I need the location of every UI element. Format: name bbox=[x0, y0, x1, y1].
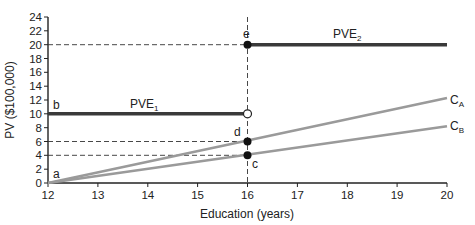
y-tick-label: 24 bbox=[29, 11, 42, 23]
cb-label: CB bbox=[450, 119, 464, 135]
x-tick-label: 15 bbox=[191, 189, 204, 201]
x-tick-label: 12 bbox=[42, 189, 55, 201]
y-tick-label: 2 bbox=[36, 163, 42, 175]
x-tick-label: 17 bbox=[291, 189, 304, 201]
y-axis-title: PV ($100,000) bbox=[3, 61, 17, 138]
label-b: b bbox=[53, 98, 60, 112]
y-tick-label: 10 bbox=[29, 108, 42, 120]
pve1-label: PVE1 bbox=[130, 97, 159, 113]
label-d: d bbox=[234, 125, 241, 139]
pve-lines bbox=[48, 45, 447, 114]
x-tick-label: 13 bbox=[92, 189, 105, 201]
pv-education-chart: 0 2 4 6 8 10 12 14 16 18 20 22 24 12 13 … bbox=[0, 0, 475, 225]
y-tick-label: 6 bbox=[36, 136, 42, 148]
y-tick-label: 0 bbox=[36, 177, 42, 189]
y-tick-label: 18 bbox=[29, 53, 42, 65]
y-tick-label: 12 bbox=[29, 94, 42, 106]
y-tick-label: 20 bbox=[29, 39, 42, 51]
point-e-marker bbox=[244, 41, 252, 49]
x-tick-label: 20 bbox=[441, 189, 454, 201]
y-ticks: 0 2 4 6 8 10 12 14 16 18 20 22 24 bbox=[29, 11, 48, 189]
pve2-label: PVE2 bbox=[333, 27, 362, 43]
label-c: c bbox=[252, 157, 258, 171]
label-e: e bbox=[243, 27, 250, 41]
y-tick-label: 14 bbox=[29, 80, 42, 92]
label-a: a bbox=[53, 167, 60, 181]
x-tick-label: 14 bbox=[141, 189, 154, 201]
y-tick-label: 22 bbox=[29, 25, 42, 37]
point-d-marker bbox=[244, 138, 252, 146]
x-tick-label: 18 bbox=[341, 189, 354, 201]
y-tick-label: 8 bbox=[36, 122, 42, 134]
y-tick-label: 16 bbox=[29, 66, 42, 78]
x-ticks: 12 13 14 15 16 17 18 19 20 bbox=[42, 183, 454, 201]
y-tick-label: 4 bbox=[36, 149, 43, 161]
point-c-marker bbox=[244, 151, 252, 159]
open-circle-marker bbox=[244, 110, 252, 118]
x-tick-label: 16 bbox=[241, 189, 254, 201]
x-axis-title: Education (years) bbox=[200, 207, 294, 221]
x-tick-label: 19 bbox=[391, 189, 404, 201]
ca-label: CA bbox=[450, 93, 465, 109]
